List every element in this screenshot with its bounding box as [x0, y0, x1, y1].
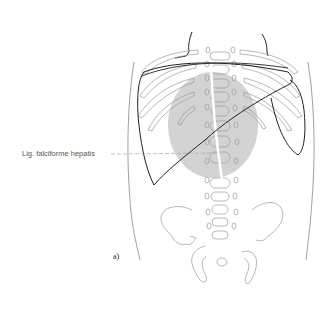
falciform-ligament-label: Lig. falciforme hepatis [22, 149, 95, 158]
panel-label: a) [113, 252, 119, 261]
neck-right [262, 34, 268, 56]
pelvis [161, 203, 283, 284]
torso-right-outline [306, 62, 314, 260]
neck-left [175, 32, 192, 58]
torso-diagram [0, 0, 331, 331]
